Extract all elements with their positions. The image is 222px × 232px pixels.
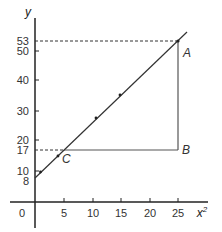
y-tick-label-50: 50 xyxy=(17,45,29,57)
x-tick-label-5: 5 xyxy=(61,207,67,219)
point-label-B: B xyxy=(182,143,190,157)
x-tick-label-20: 20 xyxy=(144,207,156,219)
x-tick-label-25: 25 xyxy=(172,207,184,219)
y-tick-label-40: 40 xyxy=(17,74,29,86)
point-label-C: C xyxy=(62,152,71,166)
x-tick-label-10: 10 xyxy=(87,207,99,219)
y-tick-label-30: 30 xyxy=(17,105,29,117)
x-tick-label-0: 0 xyxy=(19,207,25,219)
chart: 0 5 10 15 20 25 53 50 40 30 20 17 10 8 y… xyxy=(0,0,222,232)
point-label-A: A xyxy=(182,46,191,60)
y-axis-label: y xyxy=(24,5,32,19)
y-tick-label-17: 17 xyxy=(17,144,29,156)
x-tick-label-15: 15 xyxy=(115,207,127,219)
y-tick-label-8: 8 xyxy=(23,175,29,187)
x-axis-label: x2 xyxy=(196,205,208,220)
